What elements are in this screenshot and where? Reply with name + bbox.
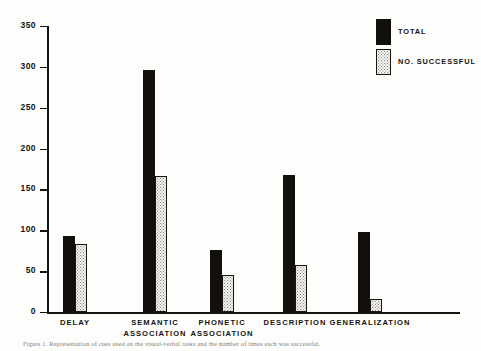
bar-successful xyxy=(222,275,234,312)
chart-legend: TOTALNO. SUCCESSFUL xyxy=(376,19,480,79)
y-tick-label: 100 xyxy=(21,224,36,234)
bar-group xyxy=(143,26,167,312)
y-tick-label: 250 xyxy=(21,102,36,112)
bar-group xyxy=(210,26,234,312)
bar-successful xyxy=(370,299,382,312)
x-axis-line xyxy=(47,312,460,314)
legend-row: NO. SUCCESSFUL xyxy=(376,49,480,79)
y-tick-label: 0 xyxy=(31,306,36,316)
legend-label: TOTAL xyxy=(398,27,426,36)
legend-label: NO. SUCCESSFUL xyxy=(398,57,476,66)
bar-successful xyxy=(295,265,307,312)
y-tick-350: 350 xyxy=(40,26,48,27)
y-tick-50: 50 xyxy=(40,271,48,272)
bar-total xyxy=(63,236,75,312)
bar-total xyxy=(210,250,222,312)
y-axis-line xyxy=(47,26,49,312)
y-tick-label: 50 xyxy=(26,265,36,275)
bar-group xyxy=(283,26,307,312)
y-tick-200: 200 xyxy=(40,149,48,150)
bar-chart-figure: 050100150200250300350 DELAYSEMANTIC ASSO… xyxy=(0,0,481,351)
y-tick-label: 350 xyxy=(21,20,36,30)
y-tick-label: 200 xyxy=(21,143,36,153)
stippled-white-swatch xyxy=(376,49,391,75)
y-tick-label: 300 xyxy=(21,61,36,71)
x-label-delay: DELAY xyxy=(30,318,120,329)
figure-caption: Figure 1. Representation of cues used on… xyxy=(23,340,463,351)
bar-total xyxy=(283,175,295,312)
y-tick-150: 150 xyxy=(40,189,48,190)
solid-black-swatch xyxy=(376,19,391,45)
bar-successful xyxy=(75,244,87,312)
legend-row: TOTAL xyxy=(376,19,480,49)
y-tick-label: 150 xyxy=(21,183,36,193)
y-tick-100: 100 xyxy=(40,230,48,231)
x-label-generalization: GENERALIZATION xyxy=(325,318,415,329)
bar-group xyxy=(63,26,87,312)
bar-successful xyxy=(155,176,167,312)
y-tick-250: 250 xyxy=(40,108,48,109)
bar-total xyxy=(143,70,155,312)
y-tick-0: 0 xyxy=(40,312,48,313)
y-tick-300: 300 xyxy=(40,67,48,68)
bar-total xyxy=(358,232,370,312)
